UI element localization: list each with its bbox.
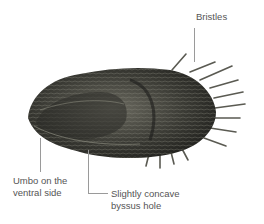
leader-line-byssus-horizontal: [88, 193, 108, 194]
label-umbo-line1: Umbo on the: [13, 175, 67, 187]
leader-line-umbo: [40, 138, 41, 172]
leader-line-bristles: [194, 28, 195, 62]
label-umbo: Umbo on the ventral side: [13, 175, 67, 198]
label-byssus-line1: Slightly concave: [111, 188, 180, 200]
label-umbo-line2: ventral side: [13, 187, 67, 199]
label-byssus: Slightly concave byssus hole: [111, 188, 180, 211]
leader-line-byssus-vertical: [88, 150, 89, 194]
label-byssus-line2: byssus hole: [111, 200, 180, 212]
label-bristles: Bristles: [196, 11, 227, 23]
